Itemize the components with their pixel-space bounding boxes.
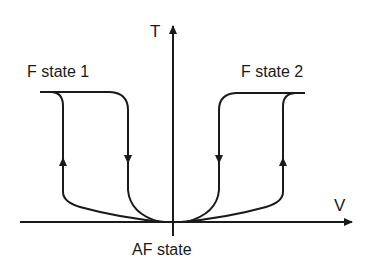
down-arrow-icon: [215, 155, 223, 164]
hysteresis-diagram: [0, 0, 369, 278]
left-loop-outer-curve: [40, 92, 165, 222]
right-loop-inner-curve: [173, 93, 305, 222]
up-arrow-icon: [59, 157, 67, 166]
y-axis-label: T: [150, 23, 160, 40]
down-arrow-icon: [124, 155, 132, 164]
f-state-1-label: F state 1: [27, 64, 89, 80]
af-state-label: AF state: [132, 242, 192, 258]
right-loop-outer-curve: [181, 93, 295, 222]
up-arrow-icon: [279, 157, 287, 166]
x-axis-label: V: [334, 197, 345, 214]
f-state-2-label: F state 2: [241, 64, 303, 80]
